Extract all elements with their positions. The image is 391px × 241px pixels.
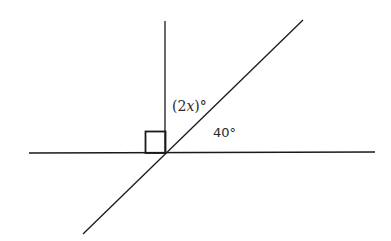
diagonal-line [83,20,303,234]
horizontal-line [29,152,375,153]
angle-diagram: (2x)° 40° [0,0,391,241]
angle-label-40: 40° [213,125,236,140]
right-angle-marker [146,132,166,154]
angle-label-2x: (2x)° [172,98,207,114]
